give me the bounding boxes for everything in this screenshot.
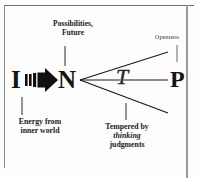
caption-energy-line2: inner world — [2, 126, 78, 135]
caption-tempered-line2: thinking — [90, 131, 164, 140]
letter-thinking: T — [116, 66, 128, 88]
caption-tempered-line1: Tempered by — [90, 122, 164, 131]
letter-intuition: N — [58, 67, 76, 92]
diagram-canvas: I N T P Possibilities, Future Openness E… — [0, 0, 198, 178]
energy-arrow-icon — [25, 68, 58, 92]
caption-energy-line1: Energy from — [2, 117, 78, 126]
caption-tempered-line3: judgments — [90, 140, 164, 149]
caption-possibilities: Possibilities, Future — [34, 20, 112, 38]
caption-energy: Energy from inner world — [2, 117, 78, 135]
caption-possibilities-line2: Future — [34, 29, 112, 38]
letter-introversion: I — [11, 67, 21, 92]
caption-openness-line1: Openness — [142, 33, 192, 40]
letter-perceiving: P — [170, 67, 185, 91]
caption-tempered: Tempered by thinking judgments — [90, 122, 164, 150]
caption-openness: Openness — [142, 33, 192, 40]
